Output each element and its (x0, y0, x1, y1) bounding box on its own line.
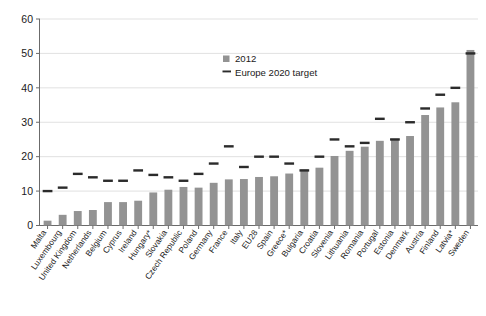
y-tick-label: 20 (21, 150, 33, 162)
target-marker (450, 87, 460, 89)
target-marker (435, 94, 445, 96)
bar (74, 211, 82, 225)
y-tick-label: 50 (21, 47, 33, 59)
target-marker (360, 142, 370, 144)
legend-label-target: Europe 2020 target (235, 67, 317, 78)
target-marker (269, 155, 279, 157)
bar (436, 107, 444, 225)
bar (391, 139, 399, 226)
bar (285, 174, 293, 226)
legend-group: 2012Europe 2020 target (223, 53, 318, 78)
target-marker (239, 166, 249, 168)
y-tick-label: 30 (21, 116, 33, 128)
bar (44, 221, 52, 226)
y-axis-ticks-group: 0102030405060 (21, 13, 40, 232)
target-marker (345, 145, 355, 147)
target-marker (58, 186, 68, 188)
bar (119, 202, 127, 225)
y-tick-label: 0 (27, 219, 33, 231)
bar (406, 136, 414, 225)
bar (300, 169, 308, 225)
bar (451, 102, 459, 225)
x-axis-ticks-group (48, 226, 471, 230)
bar (180, 187, 188, 226)
bar (270, 176, 278, 225)
target-marker (420, 107, 430, 109)
bar (225, 179, 233, 225)
bar (255, 177, 263, 226)
bar (240, 179, 248, 225)
bar (134, 201, 142, 226)
target-marker (103, 180, 113, 182)
bar (89, 210, 97, 225)
bar (195, 188, 203, 226)
bar (361, 147, 369, 226)
target-marker (224, 145, 234, 147)
target-marker (315, 155, 325, 157)
bar (59, 215, 67, 226)
bar (331, 156, 339, 226)
target-marker (375, 118, 385, 120)
bar (421, 115, 429, 225)
y-tick-label: 10 (21, 185, 33, 197)
bar (315, 168, 323, 226)
target-marker (118, 180, 128, 182)
bar (149, 192, 157, 225)
target-marker (209, 162, 219, 164)
bar (104, 202, 112, 225)
legend-dash-marker (223, 71, 232, 73)
target-marker (43, 190, 53, 192)
category-labels-group: MaltaLuxembourgUnited KingdomNetherlands… (28, 227, 471, 282)
chart-container: 0102030405060 MaltaLuxembourgUnited King… (0, 0, 486, 316)
y-tick-label: 60 (21, 13, 33, 25)
bar (210, 183, 218, 226)
target-marker (133, 169, 143, 171)
target-marker (254, 155, 264, 157)
target-marker (88, 176, 98, 178)
target-marker (148, 174, 158, 176)
bar (346, 151, 354, 226)
target-marker (164, 176, 174, 178)
target-marker (405, 121, 415, 123)
bar (164, 190, 172, 226)
legend-square-marker (223, 56, 230, 63)
target-marker (466, 52, 476, 54)
bar (376, 141, 384, 226)
target-marker (179, 180, 189, 182)
target-marker (284, 162, 294, 164)
y-tick-label: 40 (21, 82, 33, 94)
target-marker (390, 138, 400, 140)
bar-chart-svg: 0102030405060 MaltaLuxembourgUnited King… (0, 0, 486, 316)
bar (467, 50, 475, 226)
target-marker (73, 173, 83, 175)
target-marker (299, 169, 309, 171)
legend-label-2012: 2012 (235, 53, 256, 64)
target-marker (194, 173, 204, 175)
target-marker (330, 138, 340, 140)
